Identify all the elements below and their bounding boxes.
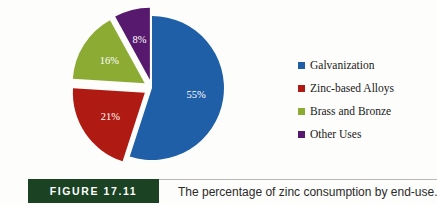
- pie-slice-label-zinc-based-alloys: 21%: [101, 111, 121, 122]
- pie-slice-label-galvanization: 55%: [186, 89, 206, 100]
- legend-swatch-other-uses: [298, 131, 305, 138]
- legend-item-zinc-based-alloys: Zinc-based Alloys: [298, 77, 433, 100]
- legend-label-zinc-based-alloys: Zinc-based Alloys: [310, 83, 394, 95]
- pie-slices: [73, 8, 224, 162]
- legend-swatch-galvanization: [298, 62, 305, 69]
- legend-label-galvanization: Galvanization: [310, 60, 375, 72]
- legend-swatch-zinc-based-alloys: [298, 85, 305, 92]
- figure-caption-text: The percentage of zinc consumption by en…: [159, 185, 437, 199]
- legend-label-brass-and-bronze: Brass and Bronze: [310, 106, 391, 118]
- legend: Galvanization Zinc-based Alloys Brass an…: [298, 54, 433, 146]
- figure-number-badge: FIGURE 17.11: [28, 179, 159, 203]
- legend-item-other-uses: Other Uses: [298, 123, 433, 146]
- pie-chart: 55%21%16%8%: [48, 2, 258, 177]
- pie-slice-label-brass-and-bronze: 16%: [100, 55, 120, 66]
- legend-item-brass-and-bronze: Brass and Bronze: [298, 100, 433, 123]
- figure-caption-container: The percentage of zinc consumption by en…: [159, 179, 437, 203]
- legend-label-other-uses: Other Uses: [310, 129, 361, 141]
- figure-caption-bar: FIGURE 17.11 The percentage of zinc cons…: [28, 179, 437, 203]
- figure-number-text: FIGURE 17.11: [50, 185, 137, 197]
- pie-chart-svg: 55%21%16%8%: [48, 2, 258, 177]
- legend-item-galvanization: Galvanization: [298, 54, 433, 77]
- figure-zinc-consumption-pie: 55%21%16%8% Galvanization Zinc-based All…: [0, 0, 437, 205]
- legend-swatch-brass-and-bronze: [298, 108, 305, 115]
- pie-slice-label-other-uses: 8%: [132, 34, 146, 45]
